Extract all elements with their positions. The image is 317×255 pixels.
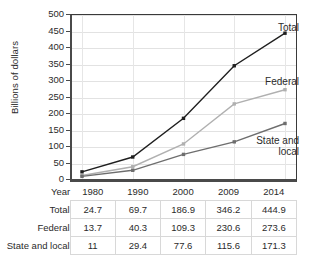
table-row-label: Federal xyxy=(0,219,70,237)
table-column-header: 1990 xyxy=(115,183,160,201)
y-tick-label: 450 xyxy=(34,26,64,36)
table-row: Total24.769.7186.9346.2444.9 xyxy=(0,201,297,219)
data-point-marker xyxy=(233,140,236,143)
data-point-marker xyxy=(233,64,236,67)
series-label-total: Total xyxy=(278,22,299,33)
y-tick-label: 250 xyxy=(34,92,64,102)
y-axis-title: Billions of dollars xyxy=(9,23,20,133)
series-label-federal: Federal xyxy=(265,76,299,87)
series-label-state-and-local: State and local xyxy=(256,135,299,157)
chart-figure: Billions of dollars 50045040035030025020… xyxy=(0,0,317,255)
data-point-marker xyxy=(80,175,83,178)
data-point-marker xyxy=(182,117,185,120)
data-point-marker xyxy=(80,170,83,173)
table-cell: 13.7 xyxy=(70,219,115,237)
y-tick-label: 200 xyxy=(34,108,64,118)
table-cell: 11 xyxy=(70,237,115,255)
table-row: State and local1129.477.6115.6171.3 xyxy=(0,237,297,255)
table-row-year: Year19801990200020092014 xyxy=(0,183,297,201)
table-cell: 77.6 xyxy=(160,237,205,255)
table-cell: 186.9 xyxy=(160,201,205,219)
data-point-marker xyxy=(182,142,185,145)
table-cell: 171.3 xyxy=(251,237,296,255)
table-cell: 115.6 xyxy=(206,237,251,255)
table-row: Federal13.740.3109.3230.6273.6 xyxy=(0,219,297,237)
table-cell: 40.3 xyxy=(115,219,160,237)
table-column-header: 1980 xyxy=(70,183,115,201)
table-cell: 69.7 xyxy=(115,201,160,219)
table-cell: 230.6 xyxy=(206,219,251,237)
table-cell: 273.6 xyxy=(251,219,296,237)
table-row-label: Year xyxy=(0,183,70,201)
y-tick-label: 500 xyxy=(34,9,64,19)
y-tick-label: 50 xyxy=(34,158,64,168)
y-tick-label: 400 xyxy=(34,42,64,52)
data-point-marker xyxy=(283,122,286,125)
table-cell: 444.9 xyxy=(251,201,296,219)
table-row-label: State and local xyxy=(0,237,70,255)
data-point-marker xyxy=(131,169,134,172)
data-point-marker xyxy=(131,165,134,168)
series-line xyxy=(82,123,285,176)
table-cell: 109.3 xyxy=(160,219,205,237)
table-column-header: 2014 xyxy=(251,183,296,201)
y-tick-label: 150 xyxy=(34,125,64,135)
data-point-marker xyxy=(182,153,185,156)
y-tick-label: 350 xyxy=(34,59,64,69)
y-tick-label: 300 xyxy=(34,75,64,85)
data-point-marker xyxy=(131,155,134,158)
table-cell: 346.2 xyxy=(206,201,251,219)
table-column-header: 2000 xyxy=(160,183,205,201)
data-point-marker xyxy=(283,88,286,91)
data-point-marker xyxy=(233,102,236,105)
table-cell: 29.4 xyxy=(115,237,160,255)
data-table: Year19801990200020092014Total24.769.7186… xyxy=(0,183,297,255)
series-line xyxy=(82,33,285,172)
table-cell: 24.7 xyxy=(70,201,115,219)
y-tick-label: 100 xyxy=(34,141,64,151)
table-row-label: Total xyxy=(0,201,70,219)
table-column-header: 2009 xyxy=(206,183,251,201)
